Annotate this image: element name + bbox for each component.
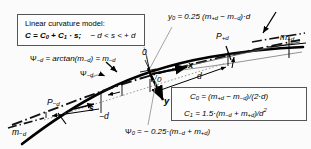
- y0-formula: y0 = 0.25 (m+d − m−d)·d: [168, 13, 250, 22]
- model-eq-lhs: C = C: [25, 31, 46, 40]
- c1-pow: 2: [263, 107, 266, 113]
- arclength-label-s: s: [89, 104, 94, 113]
- point-md-sub: −d: [53, 100, 60, 107]
- slope-pd-pointer: [263, 12, 276, 33]
- y0-leader-line: [150, 27, 172, 68]
- model-eq-range: − d < s < + d: [90, 31, 135, 40]
- point-pd-label: P+d: [216, 32, 229, 41]
- c1-plus: + m: [232, 109, 248, 118]
- psi-md-formula: Ψ−d = arctan(m−d) = m−d: [30, 55, 116, 64]
- psi-md-arc-base: Ψ: [80, 69, 87, 78]
- c0-minus: − m: [224, 92, 240, 101]
- slope-md-label: m−d: [12, 128, 26, 137]
- psi-md-arc-label: Ψ−d: [80, 70, 93, 79]
- origin-label: 0: [142, 48, 147, 57]
- c0-rhs: = (m: [199, 92, 217, 101]
- psi-md-arc-sub: −d: [87, 72, 94, 78]
- psi0-leader-line: [148, 82, 156, 125]
- psi-md-mid: = arctan(m: [43, 54, 84, 63]
- y-axis-label: y: [164, 96, 169, 106]
- psi0-formula: Ψ0 = − 0.25·(m−d + m+d): [125, 128, 210, 137]
- linear-curvature-model-box: Linear curvature model: C = C0 + C1 · s;…: [17, 14, 145, 46]
- y0-rhs: = 0.25 (m: [175, 12, 211, 21]
- linear-curvature-model-figure: Linear curvature model: C = C0 + C1 · s;…: [0, 0, 311, 149]
- coefficient-c0-equation: C0 = (m+d − m−d)/(2·d): [190, 92, 268, 102]
- psi-md-sub-b: −d: [109, 57, 116, 63]
- y0-minus: − m: [218, 12, 234, 21]
- dimension-label-minus-d: −d: [99, 112, 109, 121]
- psi0-arc-label: 0: [157, 76, 161, 84]
- model-box-equation: C = C0 + C1 · s; − d < s < + d: [25, 31, 135, 41]
- y0-tail: )·d: [240, 12, 250, 21]
- c1-rhs: = 1.5·(m: [193, 109, 225, 118]
- dimension-label-d: d: [197, 72, 202, 81]
- psi0-lhs: Ψ: [125, 127, 132, 136]
- point-md-label: P−d: [47, 98, 60, 107]
- slope-pd-tangent: [252, 33, 306, 58]
- psi0-rhs: = − 0.25·(m: [135, 127, 179, 136]
- psi0-plus: + m: [185, 127, 201, 136]
- x-axis-label: x: [188, 60, 193, 70]
- slope-pd-label: m+d: [280, 33, 294, 42]
- psi-md-eq: ) = m: [91, 54, 109, 63]
- c0-tail: )/(2·d): [246, 92, 268, 101]
- psi0-tail: ): [207, 127, 210, 136]
- point-pd-sub: +d: [222, 34, 229, 41]
- slope-md-sub: −d: [19, 130, 26, 137]
- coefficient-box: C0 = (m+d − m−d)/(2·d) C1 = 1.5·(m−d + m…: [171, 87, 307, 121]
- coefficient-c1-equation: C1 = 1.5·(m−d + m+d)/d2: [184, 107, 267, 119]
- slope-pd-sub: +d: [287, 35, 294, 42]
- model-box-title: Linear curvature model:: [25, 19, 105, 28]
- model-eq-mid: + C: [49, 31, 64, 40]
- psi-md-lhs: Ψ: [30, 54, 37, 63]
- model-eq-rhs: · s;: [67, 31, 81, 40]
